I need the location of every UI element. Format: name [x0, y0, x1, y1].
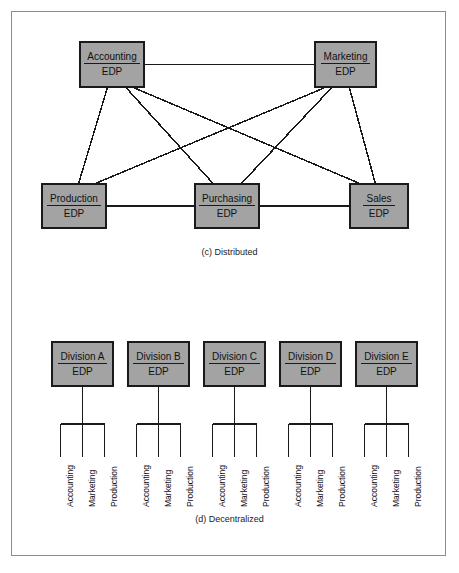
- child-label-production: Production: [109, 466, 119, 507]
- division-division-c: Division CEDP: [203, 341, 266, 387]
- child-label-marketing: Marketing: [391, 470, 401, 507]
- node-title: Purchasing: [199, 193, 255, 206]
- child-label-production: Production: [185, 466, 195, 507]
- child-label-production: Production: [261, 466, 271, 507]
- node-title: Division B: [133, 351, 183, 364]
- node-subtitle: EDP: [72, 364, 93, 378]
- child-label-accounting: Accounting: [293, 465, 303, 507]
- caption-panel-d: (d) Decentralized: [0, 514, 459, 524]
- node-marketing: MarketingEDP: [314, 41, 377, 88]
- node-subtitle: EDP: [300, 364, 321, 378]
- node-subtitle: EDP: [102, 64, 123, 78]
- node-subtitle: EDP: [148, 364, 169, 378]
- child-label-marketing: Marketing: [87, 470, 97, 507]
- child-label-production: Production: [413, 466, 423, 507]
- node-title: Marketing: [321, 51, 371, 64]
- child-label-accounting: Accounting: [369, 465, 379, 507]
- node-purchasing: PurchasingEDP: [194, 183, 260, 229]
- child-label-marketing: Marketing: [163, 470, 173, 507]
- node-title: Division A: [58, 351, 108, 364]
- child-label-marketing: Marketing: [315, 470, 325, 507]
- node-subtitle: EDP: [369, 206, 390, 220]
- node-sales: SalesEDP: [349, 183, 409, 229]
- child-label-production: Production: [337, 466, 347, 507]
- node-subtitle: EDP: [64, 206, 85, 220]
- node-title: Production: [47, 193, 101, 206]
- division-division-b: Division BEDP: [127, 341, 190, 387]
- node-title: Sales: [363, 193, 394, 206]
- node-subtitle: EDP: [335, 64, 356, 78]
- node-subtitle: EDP: [376, 364, 397, 378]
- division-division-a: Division AEDP: [51, 341, 114, 387]
- figure-root: AccountingEDPMarketingEDPProductionEDPPu…: [0, 0, 459, 573]
- node-title: Division D: [285, 351, 336, 364]
- division-division-d: Division DEDP: [279, 341, 342, 387]
- node-subtitle: EDP: [217, 206, 238, 220]
- node-title: Division C: [209, 351, 260, 364]
- child-label-accounting: Accounting: [141, 465, 151, 507]
- node-subtitle: EDP: [224, 364, 245, 378]
- node-title: Accounting: [84, 51, 139, 64]
- node-title: Division E: [361, 351, 411, 364]
- node-accounting: AccountingEDP: [79, 41, 145, 88]
- child-label-accounting: Accounting: [65, 465, 75, 507]
- child-label-marketing: Marketing: [239, 470, 249, 507]
- division-division-e: Division EEDP: [355, 341, 418, 387]
- node-production: ProductionEDP: [41, 183, 107, 229]
- child-label-accounting: Accounting: [217, 465, 227, 507]
- caption-panel-c: (c) Distributed: [0, 247, 459, 257]
